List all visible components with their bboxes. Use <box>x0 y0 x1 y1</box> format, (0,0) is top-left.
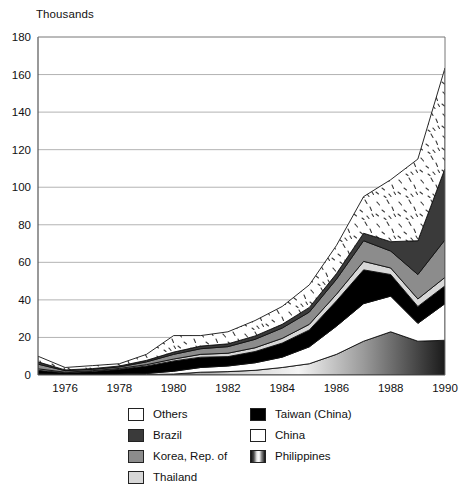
y-tick-120: 120 <box>12 144 31 156</box>
legend-item-brazil[interactable]: Brazil <box>128 425 227 446</box>
legend-label-brazil: Brazil <box>153 429 182 442</box>
legend-item-thailand[interactable]: Thailand <box>128 467 227 488</box>
y-tick-180: 180 <box>12 31 31 43</box>
legend-item-china[interactable]: China <box>250 425 352 446</box>
legend-item-others[interactable]: Others <box>128 404 227 425</box>
y-axis-tick-labels: 020406080100120140160180 <box>12 31 31 381</box>
x-axis-tick-labels: 19761978198019821984198619881990 <box>52 382 457 394</box>
y-tick-40: 40 <box>18 294 31 306</box>
y-tick-20: 20 <box>18 331 31 343</box>
x-tick-1988: 1988 <box>378 382 404 394</box>
legend-label-korea: Korea, Rep. of <box>153 450 227 463</box>
legend-label-philippines: Philippines <box>275 450 331 463</box>
legend-item-taiwan[interactable]: Taiwan (China) <box>250 404 352 425</box>
legend-label-taiwan: Taiwan (China) <box>275 408 352 421</box>
legend-swatch-philippines <box>250 450 266 463</box>
x-tick-1982: 1982 <box>215 382 241 394</box>
y-axis-unit-label: Thousands <box>36 8 94 20</box>
x-tick-1990: 1990 <box>432 382 458 394</box>
legend-swatch-thailand <box>128 471 144 484</box>
legend-label-china: China <box>275 429 305 442</box>
stacked-area-chart: 020406080100120140160180 197619781980198… <box>0 0 462 404</box>
x-tick-1986: 1986 <box>324 382 350 394</box>
legend-swatch-korea <box>128 450 144 463</box>
legend-swatch-taiwan <box>250 408 266 421</box>
legend-item-philippines[interactable]: Philippines <box>250 446 352 467</box>
y-tick-140: 140 <box>12 106 31 118</box>
y-tick-80: 80 <box>18 219 31 231</box>
y-tick-160: 160 <box>12 69 31 81</box>
x-tick-1976: 1976 <box>52 382 78 394</box>
x-tick-1984: 1984 <box>269 382 295 394</box>
legend-swatch-others <box>128 408 144 421</box>
y-tick-0: 0 <box>25 369 31 381</box>
y-tick-100: 100 <box>12 181 31 193</box>
chart-legend: Others Brazil Korea, Rep. of Thailand Ta… <box>0 404 462 488</box>
legend-column-right: Taiwan (China) China Philippines <box>250 404 352 467</box>
chart-root: Thousands <box>0 0 462 488</box>
legend-swatch-brazil <box>128 429 144 442</box>
y-tick-60: 60 <box>18 256 31 268</box>
x-tick-1980: 1980 <box>161 382 187 394</box>
legend-column-left: Others Brazil Korea, Rep. of Thailand <box>128 404 227 488</box>
legend-label-thailand: Thailand <box>153 471 197 484</box>
legend-item-korea[interactable]: Korea, Rep. of <box>128 446 227 467</box>
x-tick-1978: 1978 <box>107 382 133 394</box>
legend-label-others: Others <box>153 408 188 421</box>
legend-swatch-china <box>250 429 266 442</box>
